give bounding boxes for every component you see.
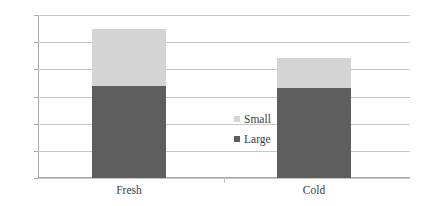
- x-axis-label-cold: Cold: [264, 184, 364, 196]
- y-tick-mark: [34, 97, 38, 98]
- bar-segment-large: [277, 88, 351, 178]
- y-tick-mark: [34, 151, 38, 152]
- y-tick-mark: [34, 42, 38, 43]
- legend-swatch-small-icon: [234, 116, 240, 122]
- bar-fresh: [92, 29, 166, 178]
- chart-legend: Small Large: [234, 109, 271, 149]
- x-axis-category-tick: [224, 178, 225, 183]
- y-tick-mark: [34, 124, 38, 125]
- x-axis-label-fresh: Fresh: [79, 184, 179, 196]
- y-tick-mark: [34, 178, 38, 179]
- bar-segment-large: [92, 86, 166, 178]
- y-tick-mark: [34, 15, 38, 16]
- bar-cold: [277, 58, 351, 178]
- bar-segment-small: [92, 29, 166, 86]
- stacked-bar-chart: 0102030405060 Small Large FreshCold: [0, 0, 424, 206]
- legend-label-large: Large: [244, 133, 271, 146]
- bar-segment-small: [277, 58, 351, 88]
- y-tick-mark: [34, 69, 38, 70]
- legend-item-large: Large: [234, 129, 271, 149]
- gridline: [38, 15, 410, 16]
- plot-area: 0102030405060 Small Large: [38, 15, 410, 178]
- legend-swatch-large-icon: [234, 136, 240, 142]
- legend-label-small: Small: [244, 113, 271, 126]
- legend-item-small: Small: [234, 109, 271, 129]
